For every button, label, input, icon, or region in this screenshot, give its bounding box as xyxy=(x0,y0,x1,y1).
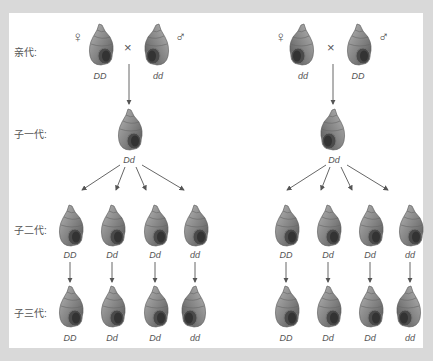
snail-left-f3-1 xyxy=(55,284,85,328)
female-symbol-icon: ♀ xyxy=(275,28,286,45)
genotype-left-f2-3: Dd xyxy=(140,250,170,260)
snail-left-f3-3 xyxy=(140,284,170,328)
label-f2: 子二代: xyxy=(14,222,47,237)
genotype-left-f2-2: Dd xyxy=(97,250,127,260)
snail-left-female xyxy=(85,22,115,66)
genotype-right-f3-4: dd xyxy=(395,333,425,343)
snail-left-male xyxy=(143,22,173,66)
snail-right-f3-1 xyxy=(271,284,301,328)
snail-right-f2-4 xyxy=(395,203,425,247)
genotype-right-f3-1: DD xyxy=(271,333,301,343)
genotype-left-f3-4: dd xyxy=(180,333,210,343)
female-symbol-icon: ♀ xyxy=(72,28,83,45)
genotype-right-f3-2: Dd xyxy=(313,333,343,343)
snail-right-male xyxy=(343,22,373,66)
genotype-right-male: DD xyxy=(343,71,373,81)
snail-right-f1 xyxy=(319,107,349,151)
snail-right-f3-2 xyxy=(313,284,343,328)
snail-left-f2-1 xyxy=(55,203,85,247)
genotype-left-female: DD xyxy=(85,71,115,81)
snail-right-f3-3 xyxy=(355,284,385,328)
snail-right-female xyxy=(288,22,318,66)
genotype-right-f2-1: DD xyxy=(271,250,301,260)
snail-right-f3-4 xyxy=(395,284,425,328)
genotype-right-f1: Dd xyxy=(319,155,349,165)
label-parents: 亲代: xyxy=(14,44,37,59)
snail-left-f2-4 xyxy=(180,203,210,247)
snail-left-f2-3 xyxy=(140,203,170,247)
genotype-left-f3-2: Dd xyxy=(97,333,127,343)
genotype-left-f1: Dd xyxy=(114,155,144,165)
cross-symbol-icon: × xyxy=(327,40,335,55)
snail-left-f3-2 xyxy=(97,284,127,328)
male-symbol-icon: ♂ xyxy=(175,28,186,45)
genotype-left-f2-1: DD xyxy=(55,250,85,260)
snail-left-f3-4 xyxy=(180,284,210,328)
genotype-left-male: dd xyxy=(143,71,173,81)
snail-right-f2-1 xyxy=(271,203,301,247)
male-symbol-icon: ♂ xyxy=(378,28,389,45)
genotype-left-f2-4: dd xyxy=(180,250,210,260)
snail-left-f1 xyxy=(114,107,144,151)
genotype-left-f3-1: DD xyxy=(55,333,85,343)
genotype-right-f2-2: Dd xyxy=(313,250,343,260)
label-f3: 子三代: xyxy=(14,305,47,320)
cross-symbol-icon: × xyxy=(124,40,132,55)
snail-left-f2-2 xyxy=(97,203,127,247)
genotype-right-f3-3: Dd xyxy=(355,333,385,343)
genotype-right-f2-3: Dd xyxy=(355,250,385,260)
label-f1: 子一代: xyxy=(14,126,47,141)
snail-right-f2-2 xyxy=(313,203,343,247)
snail-right-f2-3 xyxy=(355,203,385,247)
genotype-left-f3-3: Dd xyxy=(140,333,170,343)
genotype-right-f2-4: dd xyxy=(395,250,425,260)
genotype-right-female: dd xyxy=(288,71,318,81)
